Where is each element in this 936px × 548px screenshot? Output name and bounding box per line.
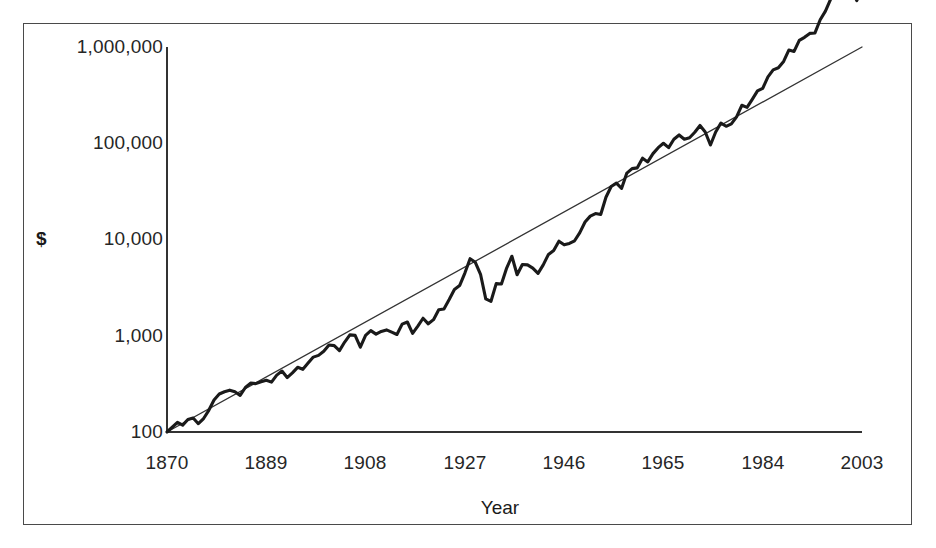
y-tick-label-1000: 1,000 [58, 325, 163, 347]
x-tick-label-1965: 1965 [641, 452, 684, 474]
y-tick-label-1000000: 1,000,000 [58, 36, 163, 58]
x-tick-label-1927: 1927 [443, 452, 486, 474]
value-line-series [167, 0, 862, 432]
x-tick-label-1984: 1984 [741, 452, 784, 474]
x-tick-label-2003: 2003 [840, 452, 883, 474]
trend-line-series [167, 47, 862, 432]
y-tick-label-10000: 10,000 [58, 228, 163, 250]
y-tick-label-100000: 100,000 [58, 132, 163, 154]
chart-figure: 1,000,000 100,000 10,000 1,000 100 1870 … [0, 0, 936, 548]
x-tick-label-1870: 1870 [145, 452, 188, 474]
x-tick-label-1946: 1946 [542, 452, 585, 474]
x-tick-label-1908: 1908 [343, 452, 386, 474]
y-tick-label-100: 100 [58, 421, 163, 443]
x-tick-label-1889: 1889 [244, 452, 287, 474]
x-axis-title: Year [481, 497, 519, 519]
y-axis-title: $ [36, 228, 47, 250]
